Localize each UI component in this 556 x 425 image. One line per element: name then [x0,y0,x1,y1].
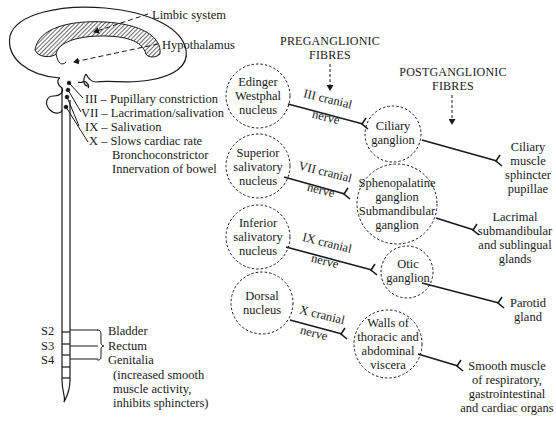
segment-s2: S2 [41,324,54,338]
target-4-line-4: and cardiac organs [458,401,556,415]
target-1-line-2: muscle [500,154,556,168]
nucleus-4-line-2: nucleus [230,303,294,317]
sacral-leaders [70,330,104,360]
post-fibre-1 [422,140,497,161]
target-1-line-1: Ciliary [500,140,556,154]
target-genitalia: Genitalia [108,353,154,367]
cranial-label-ix: IX – Salivation [85,120,161,134]
hypothalamus-label: Hypothalamus [162,38,235,52]
vagus-bronchoconstrictor: Bronchoconstrictor [112,148,209,162]
target-2-line-4: glands [474,252,556,266]
target-3-line-1: Parotid [500,296,556,310]
cranial-label-iii: III – Pupillary constriction [85,92,218,106]
ganglion-3-line-2: ganglion [381,271,435,285]
nucleus-1-line-3: nucleus [226,103,290,117]
post-fibre-3 [422,283,499,303]
target-4-line-3: gastrointestinal [458,387,556,401]
limbic-system-shape [35,22,160,57]
target-1-line-3: sphincter [500,168,556,182]
nucleus-3-line-1: Inferior [226,216,290,230]
cranial-label-vii: VII – Lacrimation/salivation [81,106,224,120]
ganglion-4-line-2: thoracic and [350,330,426,344]
nucleus-4-line-1: Dorsal [230,289,294,303]
ganglion-4-line-4: viscera [350,358,426,372]
sacral-note-1: (increased smooth [113,368,204,382]
target-4-line-1: Smooth muscle [458,359,556,373]
preganglionic-header-2: FIBRES [278,48,382,62]
nucleus-2-line-1: Superior [226,146,290,160]
segment-s4: S4 [41,353,54,367]
target-bladder: Bladder [108,324,148,338]
target-2-line-2: submandibular [474,224,556,238]
ganglion-1-line-2: ganglion [365,133,421,147]
target-4-line-2: of respiratory, [458,373,556,387]
nucleus-2-line-2: salivatory [226,160,290,174]
target-3-line-2: gland [500,310,556,324]
target-2-line-3: and sublingual [474,238,556,252]
limbic-system-label: Limbic system [152,8,226,22]
target-rectum: Rectum [108,339,147,353]
target-2-line-1: Lacrimal [474,210,556,224]
nucleus-3-line-2: salivatory [226,230,290,244]
ganglion-2-line-4: ganglion [352,218,442,232]
nucleus-2-line-3: nucleus [226,174,290,188]
ganglion-3-line-1: Otic [381,257,435,271]
postganglionic-header-1: POSTGANGLIONIC [398,65,508,79]
nucleus-1-line-2: Westphal [226,89,290,103]
ganglion-2-line-1: Sphenopalatine [352,176,442,190]
ganglion-2-line-3: Submandibular [352,204,442,218]
sacral-note-2: muscle activity, [113,382,191,396]
nucleus-3-line-3: nucleus [226,244,290,258]
postganglionic-header-2: FIBRES [398,79,508,93]
ganglion-4-line-3: abdominal [350,344,426,358]
cranial-label-x: X – Slows cardiac rate [89,134,202,148]
preganglionic-header-1: PREGANGLIONIC [278,34,382,48]
target-1-line-4: pupillae [500,182,556,196]
nucleus-1-line-1: Edinger [226,75,290,89]
vagus-bowel: Innervation of bowel [112,162,217,176]
ganglion-2-line-2: ganglion [352,190,442,204]
sacral-note-3: inhibits sphincters) [113,396,208,410]
ganglion-4-line-1: Walls of [350,316,426,330]
ganglion-1-line-1: Ciliary [365,119,421,133]
parasympathetic-diagram: Limbic system Hypothalamus III – Pupilla… [0,0,556,425]
segment-s3: S3 [41,339,54,353]
